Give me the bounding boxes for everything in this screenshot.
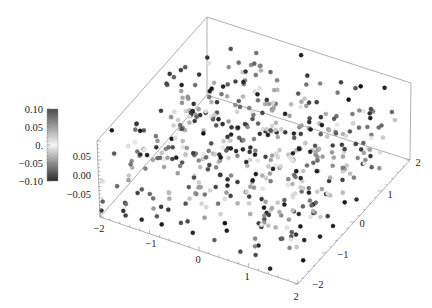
data-point <box>368 154 372 158</box>
data-point <box>187 185 191 189</box>
data-point <box>250 117 254 121</box>
data-point <box>127 174 131 178</box>
data-point <box>361 109 365 113</box>
data-point <box>269 158 273 162</box>
data-point <box>168 72 172 76</box>
data-point <box>223 221 227 225</box>
data-point <box>353 86 357 90</box>
data-point <box>179 221 183 225</box>
data-point <box>124 202 128 206</box>
data-point <box>155 139 159 143</box>
data-point <box>320 123 324 127</box>
data-point <box>159 205 163 209</box>
colorbar-label-min: −0.10 <box>19 176 43 187</box>
data-point <box>136 191 140 195</box>
data-point <box>191 151 195 155</box>
data-point <box>229 146 233 150</box>
data-point <box>318 235 322 239</box>
data-point <box>270 153 274 157</box>
data-point <box>121 209 125 213</box>
data-point <box>291 195 295 199</box>
data-point <box>326 214 330 218</box>
data-point <box>180 101 184 105</box>
data-point <box>302 238 306 242</box>
data-point <box>348 129 352 133</box>
data-point <box>286 183 290 187</box>
data-point <box>345 164 349 168</box>
data-point <box>274 225 278 229</box>
data-point <box>332 156 336 160</box>
data-point <box>292 136 296 140</box>
x-label-3: 1 <box>244 271 249 282</box>
data-point <box>319 115 323 119</box>
data-point <box>283 130 287 134</box>
data-point <box>245 164 249 168</box>
data-point <box>325 135 329 139</box>
data-point <box>253 153 257 157</box>
data-point <box>258 64 262 68</box>
data-point <box>259 223 263 227</box>
data-point <box>197 73 201 77</box>
data-point <box>248 185 252 189</box>
data-point <box>359 84 363 88</box>
data-point <box>293 175 297 179</box>
data-point <box>266 224 270 228</box>
data-point <box>214 123 218 127</box>
data-point <box>228 139 232 143</box>
data-point <box>185 146 189 150</box>
data-point <box>308 150 312 154</box>
data-point <box>227 65 231 69</box>
data-point <box>271 101 275 105</box>
data-point <box>290 182 294 186</box>
data-point <box>283 112 287 116</box>
data-point <box>270 108 274 112</box>
data-point <box>151 196 155 200</box>
data-point <box>233 79 237 83</box>
data-point <box>234 149 238 153</box>
data-point <box>336 91 340 95</box>
data-point <box>258 86 262 90</box>
x-label-1: −1 <box>145 238 156 249</box>
data-point <box>299 53 303 57</box>
data-point <box>299 132 303 136</box>
data-point <box>331 164 335 168</box>
data-point <box>303 141 307 145</box>
data-point <box>197 158 201 162</box>
data-point <box>160 222 164 226</box>
data-point <box>211 117 215 121</box>
data-point <box>138 129 142 133</box>
data-point <box>368 116 372 120</box>
data-point <box>274 128 278 132</box>
data-point <box>112 152 116 156</box>
data-point <box>248 150 252 154</box>
data-point <box>155 156 159 160</box>
data-point <box>241 80 245 84</box>
data-point <box>260 197 264 201</box>
data-point <box>204 109 208 113</box>
data-point <box>317 147 321 151</box>
data-point <box>187 115 191 119</box>
data-point <box>262 206 266 210</box>
data-point <box>124 213 128 217</box>
data-point <box>301 258 305 262</box>
data-point <box>187 121 191 125</box>
data-point <box>319 132 323 136</box>
data-point <box>263 155 267 159</box>
data-point <box>197 107 201 111</box>
data-point <box>290 158 294 162</box>
data-point <box>298 224 302 228</box>
data-point <box>207 61 211 65</box>
data-point <box>192 102 196 106</box>
data-point <box>207 149 211 153</box>
data-point <box>260 111 264 115</box>
data-point <box>266 133 270 137</box>
data-point <box>344 134 348 138</box>
data-point <box>311 161 315 165</box>
data-point <box>301 204 305 208</box>
data-point <box>315 100 319 104</box>
data-point <box>379 123 383 127</box>
data-point <box>282 198 286 202</box>
data-point <box>359 147 363 151</box>
data-point <box>368 111 372 115</box>
data-point <box>330 150 334 154</box>
